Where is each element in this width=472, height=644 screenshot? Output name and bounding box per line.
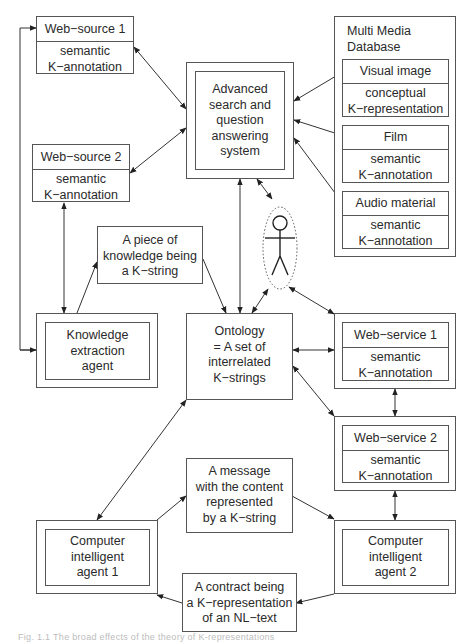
arrow-websource1-search: [134, 47, 186, 109]
film-body: semantic K−annotation: [343, 152, 448, 183]
arrow-ontology-webservice2: [293, 366, 334, 416]
arrow-search-user: [257, 179, 272, 199]
web-service-1-inner: Web−service 1 semantic K−annotation: [342, 322, 449, 381]
arrow-websource2-search: [130, 128, 186, 173]
contract-node: A contract being a K−representation of a…: [182, 573, 297, 632]
web-source-1-title: Web−source 1: [37, 17, 133, 42]
web-service-2-inner: Web−service 2 semantic K−annotation: [342, 425, 449, 483]
figure-caption: Fig. 1.1 The broad effects of the theory…: [18, 632, 275, 642]
agent-1-node: Computer intelligent agent 1: [36, 520, 158, 594]
ontology-node: Ontology = A set of interrelated K−strin…: [186, 313, 293, 400]
contract-label: A contract being a K−representation of a…: [183, 580, 296, 627]
web-source-2-body: semantic K−annotation: [33, 172, 129, 203]
knowledge-agent-label: Knowledge extraction agent: [46, 328, 149, 375]
web-service-2-node: Web−service 2 semantic K−annotation: [334, 416, 456, 491]
search-system-label: Advanced search and question answering s…: [196, 82, 284, 160]
user-stick-figure-icon: [265, 216, 295, 275]
web-source-2-node: Web−source 2 semantic K−annotation: [32, 144, 130, 202]
agent-2-node: Computer intelligent agent 2: [334, 520, 456, 594]
knowledge-agent-node: Knowledge extraction agent: [36, 313, 158, 388]
audio-material-body: semantic K−annotation: [343, 218, 448, 249]
agent-1-inner: Computer intelligent agent 1: [45, 529, 150, 586]
arrow-message-agent2: [292, 496, 334, 519]
web-service-1-node: Web−service 1 semantic K−annotation: [334, 313, 456, 389]
audio-material-node: Audio material semantic K−annotation: [342, 191, 449, 249]
web-source-1-node: Web−source 1 semantic K−annotation: [36, 16, 134, 74]
web-service-1-body: semantic K−annotation: [343, 350, 448, 381]
multimedia-database-node: Multi Media Database Visual image concep…: [334, 16, 456, 257]
arrow-kagent-piece: [77, 262, 97, 313]
multimedia-database-title: Multi Media Database: [347, 23, 411, 55]
visual-image-title: Visual image: [343, 60, 448, 84]
web-service-2-title: Web−service 2: [343, 426, 448, 451]
knowledge-piece-node: A piece of knowledge being a K−string: [97, 226, 203, 284]
arrow-ontology-agent1: [97, 400, 186, 520]
web-source-1-body: semantic K−annotation: [37, 44, 133, 75]
film-node: Film semantic K−annotation: [342, 125, 449, 183]
search-system-inner: Advanced search and question answering s…: [195, 71, 285, 170]
message-node: A message with the content represented b…: [186, 458, 293, 533]
arrow-user-ontology: [252, 289, 268, 313]
knowledge-piece-label: A piece of knowledge being a K−string: [98, 233, 202, 280]
search-system-node: Advanced search and question answering s…: [186, 62, 294, 179]
arrow-piece-ontology: [203, 259, 226, 313]
web-service-1-title: Web−service 1: [343, 323, 448, 348]
message-label: A message with the content represented b…: [187, 464, 292, 526]
film-title: Film: [343, 126, 448, 150]
knowledge-agent-inner: Knowledge extraction agent: [45, 322, 150, 380]
ontology-label: Ontology = A set of interrelated K−strin…: [187, 324, 292, 386]
arrow-agent1-message: [157, 496, 186, 520]
arrow-user-webservice1: [289, 287, 334, 314]
web-service-2-body: semantic K−annotation: [343, 453, 448, 484]
arrow-contract-agent1: [157, 595, 182, 603]
agent-1-label: Computer intelligent agent 1: [46, 534, 149, 581]
arrow-agent2-contract: [296, 594, 334, 603]
agent-2-inner: Computer intelligent agent 2: [342, 529, 449, 586]
visual-image-body: conceptual K−representation: [343, 86, 448, 117]
agent-2-label: Computer intelligent agent 2: [343, 534, 448, 581]
web-source-2-title: Web−source 2: [33, 145, 129, 170]
visual-image-node: Visual image conceptual K−representation: [342, 59, 449, 117]
audio-material-title: Audio material: [343, 192, 448, 216]
